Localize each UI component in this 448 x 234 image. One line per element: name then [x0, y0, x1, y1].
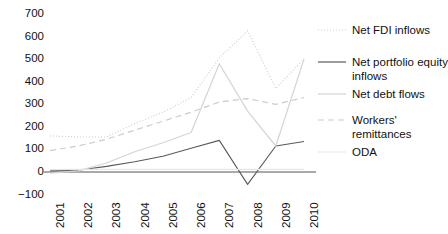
chart-legend: Net FDI inflowsNet portfolio equity infl… — [318, 0, 448, 190]
plot-svg — [44, 0, 316, 190]
x-axis-tick-label: 2005 — [168, 202, 180, 228]
x-axis-tick-label: 2009 — [281, 202, 293, 228]
x-axis-tick-label: 2006 — [196, 202, 208, 228]
x-axis-tick-label: 2010 — [309, 202, 321, 228]
y-axis-tick-label: 500 — [4, 53, 44, 65]
y-axis-tick-label: 300 — [4, 98, 44, 110]
x-axis-tick-label: 2004 — [140, 202, 152, 228]
legend-line-swatch — [318, 56, 346, 68]
series-line — [50, 31, 304, 137]
x-axis-tick-label: 2002 — [83, 202, 95, 228]
legend-item[interactable]: Net portfolio equity inflows — [318, 56, 448, 83]
line-chart: 8007006005004003002001000−100 2001200220… — [0, 0, 448, 234]
legend-item-label: Net debt flows — [352, 88, 448, 102]
legend-item[interactable]: Workers' remittances — [318, 114, 448, 141]
x-axis-tick-label: 2007 — [224, 202, 236, 228]
y-axis: 8007006005004003002001000−100 — [0, 0, 44, 234]
x-axis-tick-label: 2003 — [111, 202, 123, 228]
legend-line-swatch — [318, 146, 346, 158]
y-axis-tick-label: −100 — [4, 189, 44, 201]
legend-item-label: Workers' remittances — [352, 114, 448, 141]
legend-item[interactable]: ODA — [318, 146, 448, 160]
plot-area — [44, 0, 316, 190]
legend-line-swatch — [318, 88, 346, 100]
y-axis-tick-label: 600 — [4, 31, 44, 43]
series-line — [50, 98, 304, 151]
legend-line-swatch — [318, 114, 346, 126]
legend-item[interactable]: Net debt flows — [318, 88, 448, 102]
legend-item-label: Net FDI inflows — [352, 24, 448, 38]
y-axis-tick-label: 200 — [4, 121, 44, 133]
x-axis-tick-label: 2001 — [55, 202, 67, 228]
x-axis-tick-label: 2008 — [253, 202, 265, 228]
legend-line-swatch — [318, 24, 346, 36]
x-axis: 2001200220032004200520062007200820092010 — [44, 176, 316, 234]
legend-item-label: Net portfolio equity inflows — [352, 56, 448, 83]
y-axis-tick-label: 700 — [4, 8, 44, 20]
legend-item[interactable]: Net FDI inflows — [318, 24, 448, 38]
y-axis-tick-label: 0 — [4, 166, 44, 178]
y-axis-tick-label: 100 — [4, 143, 44, 155]
legend-item-label: ODA — [352, 146, 448, 160]
y-axis-tick-label: 400 — [4, 76, 44, 88]
